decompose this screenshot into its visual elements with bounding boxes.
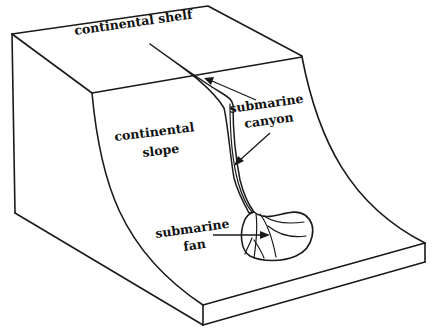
left-side-edge [12,34,15,213]
plain-bottom-front-edge [203,262,425,325]
arrow-canyon-body-line [240,133,270,160]
arrow-fan-tip [260,231,270,239]
label-continental-shelf: continental shelf [73,6,194,38]
fan-channel-1 [254,214,257,258]
continental-margin-diagram: continental shelf continental slope subm… [0,0,432,333]
label-continental-slope-line1: continental [114,119,196,144]
label-continental-slope-line2: slope [142,141,180,160]
shelf-break-edge [12,34,302,93]
submarine-fan [242,212,313,261]
slope-right-profile [302,57,425,243]
fan-channel-5 [245,238,252,254]
label-submarine-fan-line2: fan [182,236,206,254]
block-outline [12,6,425,325]
plain-top-front-edge [203,243,425,305]
fan-channel-4 [268,226,306,237]
